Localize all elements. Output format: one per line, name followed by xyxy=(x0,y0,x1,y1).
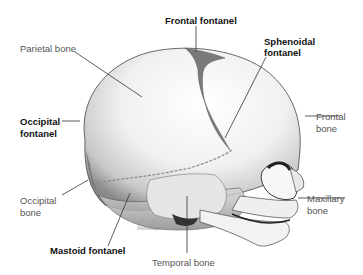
label-sphenoidal-fontanel-2: fontanel xyxy=(264,47,301,58)
label-occipital-fontanel-2: fontanel xyxy=(20,128,57,139)
label-parietal-bone: Parietal bone xyxy=(20,43,76,54)
skull-diagram: Parietal bone Frontal fontanel Sphenoida… xyxy=(0,0,363,275)
label-frontal-fontanel: Frontal fontanel xyxy=(165,15,237,26)
label-occipital-bone-1: Occipital xyxy=(20,195,56,206)
label-frontal-bone-1: Frontal xyxy=(316,111,346,122)
label-mastoid-fontanel: Mastoid fontanel xyxy=(50,245,125,256)
label-sphenoidal-fontanel-1: Sphenoidal xyxy=(264,36,315,47)
label-maxillary-bone-1: Maxillary xyxy=(307,193,344,204)
label-occipital-bone-2: bone xyxy=(20,207,41,218)
artist-signature: Pennings xyxy=(137,225,160,231)
label-occipital-fontanel-1: Occipital xyxy=(20,116,60,127)
orbit xyxy=(261,162,297,199)
label-frontal-bone-2: bone xyxy=(316,123,337,134)
label-maxillary-bone-2: bone xyxy=(307,205,328,216)
label-temporal-bone: Temporal bone xyxy=(152,257,215,268)
